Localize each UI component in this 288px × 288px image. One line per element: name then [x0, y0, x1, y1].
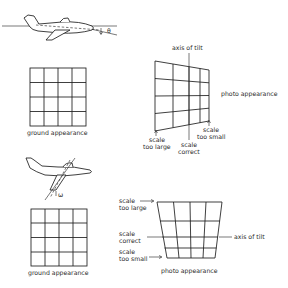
- axis-of-tilt-label-roll: axis of tilt: [234, 233, 265, 240]
- ground-appearance-label-pitch: ground appearance: [27, 129, 88, 137]
- scale-too-large-label-roll: scale too large: [119, 197, 147, 212]
- scale-too-small-label-pitch: scale too small: [197, 126, 226, 140]
- ground-appearance-label-roll: ground appearance: [28, 269, 89, 277]
- photo-grid-roll: [140, 200, 232, 259]
- theta-symbol: θ: [107, 27, 111, 34]
- scale-too-small-label-roll: scale too small: [119, 248, 148, 262]
- ground-grid-roll: [31, 209, 87, 266]
- scale-correct-label-pitch: scale correct: [178, 141, 200, 155]
- axis-of-tilt-label-pitch: axis of tilt: [172, 44, 203, 51]
- ground-grid-pitch: [30, 68, 86, 126]
- photo-appearance-label-roll: photo appearance: [161, 267, 218, 275]
- scale-too-large-label-pitch: scale too large: [143, 136, 171, 151]
- tilt-diagram: θ ground appearance axis of tilt photo a…: [0, 0, 288, 288]
- omega-symbol: ω: [58, 191, 63, 198]
- scale-correct-label-roll: scale correct: [119, 230, 141, 244]
- airplane-pitch-icon: [2, 15, 117, 40]
- photo-appearance-label-pitch: photo appearance: [221, 90, 278, 98]
